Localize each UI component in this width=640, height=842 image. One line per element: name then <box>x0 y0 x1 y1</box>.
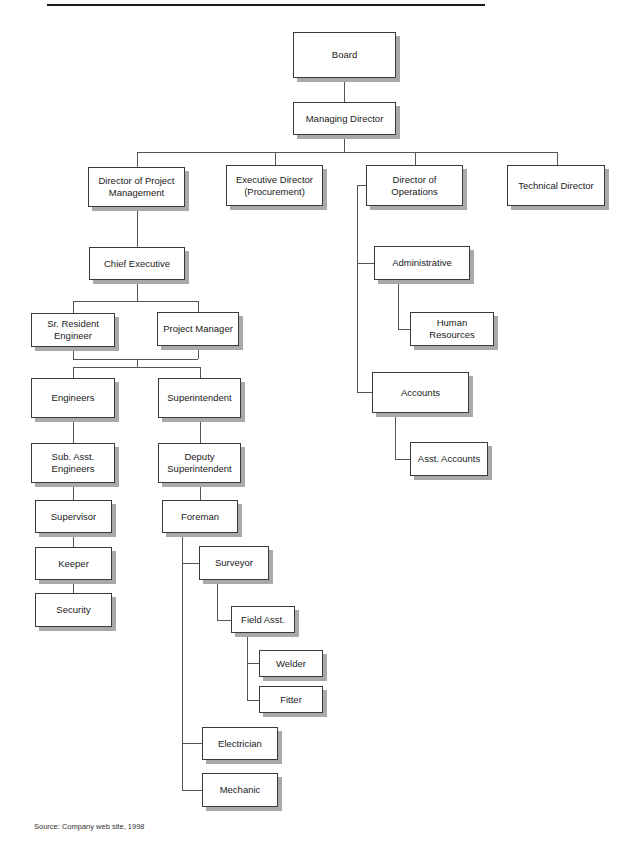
node-engineers: Engineers <box>31 378 115 418</box>
node-director-project-management: Director of Project Management <box>88 167 185 207</box>
node-supervisor: Supervisor <box>35 500 112 533</box>
node-label: Sr. Resident Engineer <box>47 318 99 342</box>
node-mechanic: Mechanic <box>202 773 278 807</box>
node-chief-executive: Chief Executive <box>89 247 185 280</box>
node-label: Director of Project Management <box>98 175 174 199</box>
node-welder: Welder <box>259 650 323 677</box>
node-label: Electrician <box>218 738 262 750</box>
node-managing-director: Managing Director <box>293 102 396 135</box>
node-technical-director: Technical Director <box>507 165 605 206</box>
node-label: Human Resources <box>415 317 489 341</box>
node-label: Security <box>56 604 90 616</box>
node-label: Welder <box>276 658 306 670</box>
node-label: Managing Director <box>306 113 384 125</box>
node-label: Chief Executive <box>104 258 170 270</box>
node-label: Engineers <box>52 392 95 404</box>
node-surveyor: Surveyor <box>199 546 269 580</box>
node-keeper: Keeper <box>35 547 112 580</box>
node-label: Field Asst. <box>241 614 285 626</box>
node-director-operations: Director of Operations <box>366 165 463 206</box>
node-fitter: Fitter <box>259 686 323 713</box>
node-label: Fitter <box>280 694 302 706</box>
node-label: Supervisor <box>51 511 96 523</box>
node-asst-accounts: Asst. Accounts <box>410 442 488 476</box>
node-foreman: Foreman <box>162 500 238 533</box>
node-label: Project Manager <box>163 323 233 335</box>
node-label: Director of Operations <box>371 174 458 198</box>
node-label: Foreman <box>181 511 219 523</box>
node-label: Technical Director <box>518 180 594 192</box>
node-label: Board <box>332 49 357 61</box>
node-field-asst: Field Asst. <box>231 606 295 633</box>
node-accounts: Accounts <box>372 372 469 413</box>
node-security: Security <box>35 593 112 627</box>
node-label: Mechanic <box>220 784 261 796</box>
node-executive-director: Executive Director (Procurement) <box>226 165 323 206</box>
node-label: Administrative <box>392 257 452 269</box>
node-label: Keeper <box>58 558 89 570</box>
node-superintendent: Superintendent <box>158 378 241 418</box>
node-sub-asst-engineers: Sub. Asst. Engineers <box>31 443 115 483</box>
node-project-manager: Project Manager <box>157 312 239 346</box>
node-label: Superintendent <box>167 392 231 404</box>
node-label: Executive Director (Procurement) <box>236 174 313 198</box>
node-administrative: Administrative <box>374 246 470 280</box>
node-label: Surveyor <box>215 557 253 569</box>
node-board: Board <box>293 32 396 78</box>
node-label: Sub. Asst. Engineers <box>52 451 95 475</box>
node-human-resources: Human Resources <box>410 312 494 346</box>
node-sr-resident-engineer: Sr. Resident Engineer <box>31 313 115 347</box>
node-label: Asst. Accounts <box>418 453 480 465</box>
node-deputy-superintendent: Deputy Superintendent <box>158 443 241 483</box>
source-note: Source: Company web site, 1998 <box>34 822 144 831</box>
node-label: Accounts <box>401 387 440 399</box>
node-label: Deputy Superintendent <box>167 451 231 475</box>
node-electrician: Electrician <box>202 727 278 760</box>
